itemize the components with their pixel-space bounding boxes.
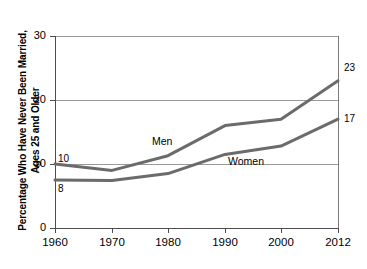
series-label-men: Men (152, 135, 172, 147)
series-line-men (55, 81, 338, 171)
value-label-men-end: 23 (344, 62, 355, 73)
line-chart: Percentage Who Have Never Been Married, … (0, 0, 367, 269)
value-label-women-end: 17 (344, 113, 355, 124)
series-label-women: Women (228, 155, 264, 167)
value-label-women-start: 8 (58, 183, 64, 194)
data-lines-layer (0, 0, 367, 269)
series-line-women (55, 119, 338, 180)
value-label-men-start: 10 (58, 153, 69, 164)
